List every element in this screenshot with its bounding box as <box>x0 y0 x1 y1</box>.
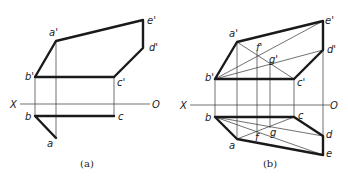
label-d-b: d <box>326 129 333 140</box>
label-a-prime-b: a' <box>229 28 238 39</box>
caption-b: (b) <box>263 158 277 169</box>
label-e-prime: e' <box>147 15 156 26</box>
axis-label-o-b: O <box>330 100 338 111</box>
label-e-b: e <box>326 148 332 159</box>
diagonal-a1c1 <box>237 42 294 79</box>
label-a: a <box>47 138 53 149</box>
axis-label-x: X <box>9 99 18 110</box>
label-b-prime: b' <box>25 71 34 82</box>
label-b: b <box>25 111 31 122</box>
label-d-prime: d' <box>149 42 158 53</box>
label-a-prime: a' <box>49 27 58 38</box>
label-e-prime-b: e' <box>325 15 334 26</box>
label-g-b: g <box>270 127 276 138</box>
figure-b: a' b' c' d' e' f' g' X O b c a d e f g (… <box>179 15 338 169</box>
label-b-b: b <box>205 112 211 123</box>
label-c-prime: c' <box>117 77 125 88</box>
label-c-prime-b: c' <box>297 77 305 88</box>
label-f-prime-b: f' <box>256 42 262 53</box>
top-view-outline-a <box>35 116 114 138</box>
label-f-b: f <box>255 132 260 143</box>
label-d-prime-b: d' <box>327 44 336 55</box>
label-c: c <box>118 111 124 122</box>
axis-label-x-b: X <box>179 100 188 111</box>
diagram-canvas: a' b' c' d' e' X O b c a (a) a' <box>0 0 348 180</box>
figure-a: a' b' c' d' e' X O b c a (a) <box>9 15 160 169</box>
axis-label-o: O <box>152 99 160 110</box>
label-g-prime-b: g' <box>269 54 278 65</box>
label-b-prime-b: b' <box>205 72 214 83</box>
label-c-b: c <box>298 110 304 121</box>
caption-a: (a) <box>80 158 94 169</box>
label-a-b: a <box>229 140 235 151</box>
